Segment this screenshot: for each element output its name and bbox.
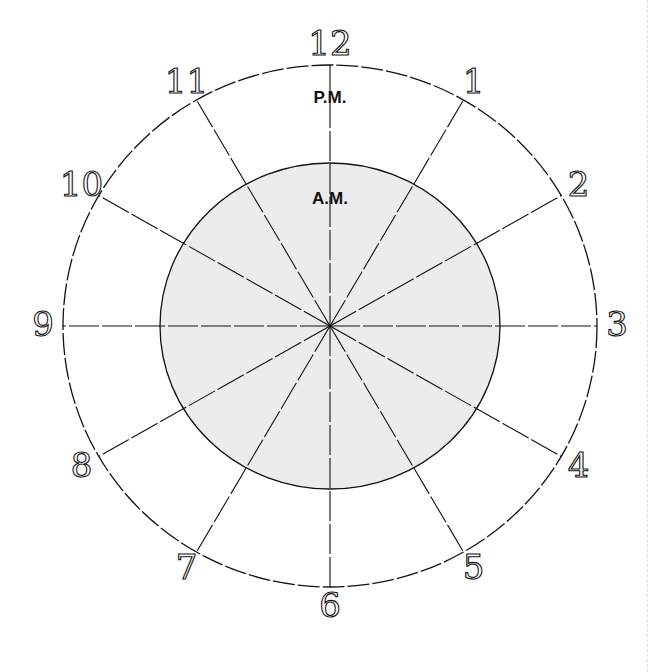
hour-5-numeral: 5 [463,547,485,587]
am-label: A.M. [312,189,348,208]
pm-label: P.M. [314,88,347,107]
hour-8-numeral: 8 [71,445,93,485]
hour-10-numeral: 10 [60,164,103,204]
hour-7-numeral: 7 [176,547,198,587]
hour-3-numeral: 3 [606,304,628,344]
hour-4-numeral: 4 [568,445,590,485]
hour-1-numeral: 1 [463,61,485,101]
hour-9-numeral: 9 [32,304,54,344]
hour-12-numeral: 12 [308,23,351,63]
hour-2-numeral: 2 [568,164,590,204]
hour-11-numeral: 11 [165,61,208,101]
clock-face: 121234567891011 P.M. A.M. [0,0,654,672]
clock-diagram: 121234567891011 P.M. A.M. [0,0,654,672]
hour-6-numeral: 6 [319,585,341,625]
hour-spokes [63,65,597,587]
